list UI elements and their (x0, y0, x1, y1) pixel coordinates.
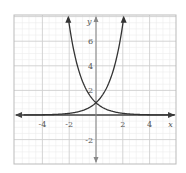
plot-border (14, 15, 176, 164)
svg-text:4: 4 (147, 120, 152, 129)
svg-text:6: 6 (88, 37, 93, 46)
minor-gridlines (14, 15, 176, 164)
x-axis-label: x (168, 120, 173, 129)
axes (15, 16, 175, 163)
function-graph: -4-224-2246 x y (0, 0, 186, 173)
major-gridlines (14, 15, 176, 164)
svg-text:-2: -2 (85, 136, 93, 145)
svg-text:-4: -4 (39, 120, 47, 129)
svg-text:4: 4 (88, 62, 93, 71)
y-axis-label: y (86, 17, 92, 26)
svg-text:-2: -2 (65, 120, 73, 129)
svg-text:2: 2 (120, 120, 125, 129)
